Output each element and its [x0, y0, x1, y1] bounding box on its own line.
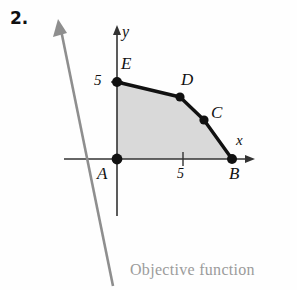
vertex-label-e: E — [121, 55, 131, 72]
vertex-label-c: C — [211, 104, 222, 121]
objective-function-caption: Objective function — [130, 262, 255, 278]
vertex-point-A — [112, 154, 123, 165]
x-axis-label: x — [236, 133, 243, 148]
vertex-point-E — [112, 77, 122, 87]
y-axis-label: y — [122, 24, 129, 40]
objective-function-line — [61, 30, 113, 286]
x-axis-arrowhead — [245, 155, 255, 163]
objective-function-arrowhead — [53, 19, 67, 37]
vertex-label-b: B — [229, 165, 239, 182]
vertex-point-B — [227, 154, 237, 164]
problem-number-label: 2. — [10, 10, 28, 27]
vertex-point-D — [175, 92, 184, 101]
vertex-label-d: D — [181, 71, 193, 88]
y-axis-tick-label-5: 5 — [94, 73, 102, 88]
x-axis-tick-label-5: 5 — [177, 167, 184, 181]
linear-programming-figure — [0, 0, 297, 290]
figure-page: 2. y x 5 5 A B C D E Objective function — [0, 0, 297, 290]
y-axis-arrowhead — [113, 25, 121, 35]
vertex-label-a: A — [97, 165, 107, 182]
vertex-point-C — [199, 115, 208, 124]
